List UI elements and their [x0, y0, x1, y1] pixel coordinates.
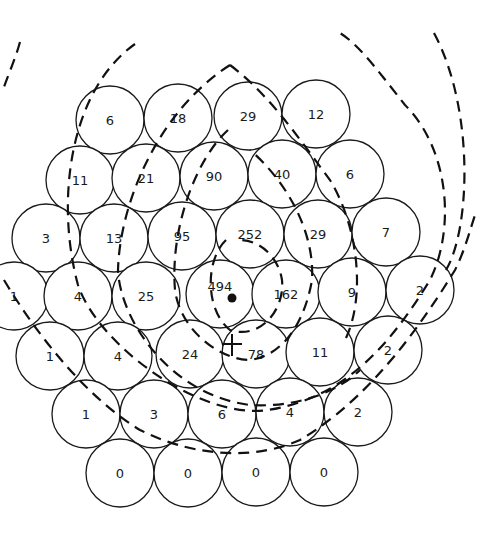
cell: 25 — [112, 262, 180, 330]
cell-count-label: 95 — [174, 229, 191, 244]
cell-count-label: 4 — [286, 405, 294, 420]
contour-outer-right — [434, 33, 464, 270]
cell-count-label: 11 — [312, 345, 329, 360]
cell: 9 — [318, 258, 386, 326]
cell: 1 — [16, 322, 84, 390]
cell-count-label: 6 — [106, 113, 114, 128]
cell: 6 — [188, 380, 256, 448]
cell-count-label: 12 — [308, 107, 325, 122]
cell: 12 — [282, 80, 350, 148]
contour-left-fragment — [3, 42, 20, 90]
cell-array: 6182912112190406313952522971425494162921… — [0, 80, 454, 507]
cell-count-label: 1 — [82, 407, 90, 422]
cell-count-label: 252 — [238, 227, 263, 242]
cell: 494 — [186, 260, 254, 328]
cell-count-label: 11 — [72, 173, 89, 188]
cell-count-label: 18 — [170, 111, 187, 126]
cell: 18 — [144, 84, 212, 152]
cell: 4 — [256, 378, 324, 446]
cell: 4 — [44, 262, 112, 330]
cell: 2 — [354, 316, 422, 384]
cell: 13 — [80, 204, 148, 272]
cell: 11 — [46, 146, 114, 214]
cell-count-label: 6 — [218, 407, 226, 422]
cell: 0 — [290, 438, 358, 506]
cell-count-label: 3 — [42, 231, 50, 246]
cell-count-label: 0 — [184, 466, 192, 481]
cell-count-label: 13 — [106, 231, 123, 246]
cell: 6 — [76, 86, 144, 154]
cell: 29 — [214, 82, 282, 150]
cell-count-label: 4 — [114, 349, 122, 364]
cell: 90 — [180, 142, 248, 210]
peak-dot — [228, 294, 237, 303]
cell-count-label: 0 — [252, 465, 260, 480]
cell-count-label: 29 — [240, 109, 257, 124]
cell: 7 — [352, 198, 420, 266]
cell-count-label: 6 — [346, 167, 354, 182]
cell-count-label: 0 — [116, 466, 124, 481]
cell-count-label: 9 — [348, 285, 356, 300]
cell: 0 — [154, 439, 222, 507]
cell: 3 — [12, 204, 80, 272]
cell-circle — [186, 260, 254, 328]
cell: 2 — [386, 256, 454, 324]
cell-count-label: 0 — [320, 465, 328, 480]
cell: 24 — [156, 320, 224, 388]
cell: 162 — [252, 260, 320, 328]
cell: 40 — [248, 140, 316, 208]
cell-count-label: 1 — [46, 349, 54, 364]
cell: 3 — [120, 380, 188, 448]
cell-count-label: 7 — [382, 225, 390, 240]
cell: 1 — [52, 380, 120, 448]
cell-count-label: 25 — [138, 289, 155, 304]
cell-diagram: 6182912112190406313952522971425494162921… — [0, 0, 492, 534]
cell-count-label: 24 — [182, 347, 199, 362]
cell: 29 — [284, 200, 352, 268]
cell-count-label: 40 — [274, 167, 291, 182]
cell-count-label: 3 — [150, 407, 158, 422]
cell: 11 — [286, 318, 354, 386]
cell-count-label: 90 — [206, 169, 223, 184]
cell-count-label: 4 — [74, 289, 82, 304]
cell-count-label: 29 — [310, 227, 327, 242]
cell: 21 — [112, 144, 180, 212]
cell-count-label: 162 — [274, 287, 299, 302]
cell: 4 — [84, 322, 152, 390]
cell: 0 — [86, 439, 154, 507]
cell-count-label: 2 — [384, 343, 392, 358]
cell-count-label: 2 — [354, 405, 362, 420]
